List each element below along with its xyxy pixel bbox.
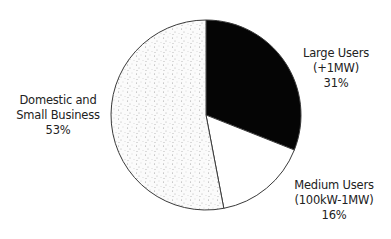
label-medium-users: Medium Users (100kW-1MW) 16% [278,178,390,223]
label-domestic-small-business: Domestic and Small Business 53% [6,93,110,138]
label-domestic-pct: 53% [6,123,110,138]
label-domestic-line1: Domestic and [6,93,110,108]
label-large-pct: 31% [283,76,389,91]
label-large-line2: (+1MW) [283,61,389,76]
pie-chart: Large Users (+1MW) 31% Medium Users (100… [0,0,391,239]
label-medium-line2: (100kW-1MW) [278,193,390,208]
label-large-line1: Large Users [283,46,389,61]
label-domestic-line2: Small Business [6,108,110,123]
label-medium-pct: 16% [278,208,390,223]
pie-slices [111,20,301,210]
label-large-users: Large Users (+1MW) 31% [283,46,389,91]
label-medium-line1: Medium Users [278,178,390,193]
